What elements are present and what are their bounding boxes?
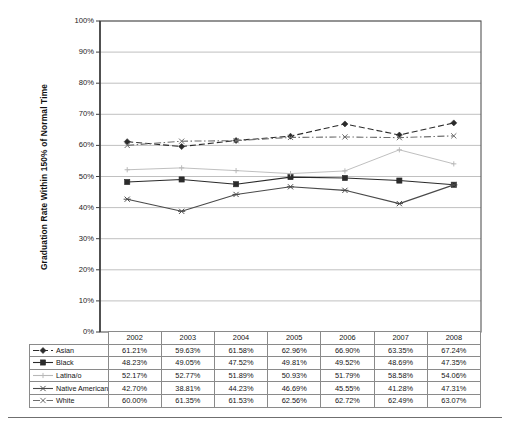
table-cell: 50.93% — [268, 369, 321, 382]
table-cell: 49.05% — [161, 357, 214, 370]
table-cell: 60.00% — [108, 394, 161, 407]
table-cell: 52.77% — [161, 369, 214, 382]
table-cell: 48.69% — [374, 357, 427, 370]
point-marker-x-bar — [341, 188, 348, 193]
series-native-american — [124, 182, 458, 214]
table-cell: 62.96% — [268, 344, 321, 357]
table-header: 2002200320042005200620072008 — [30, 332, 481, 345]
table-cell: 49.81% — [268, 357, 321, 370]
legend-label: Latina/o — [56, 371, 82, 380]
legend-entry: White — [32, 395, 108, 407]
table-cell: 41.28% — [374, 382, 427, 395]
point-marker-x-bar — [287, 184, 294, 189]
legend-label: Black — [56, 358, 74, 367]
point-marker-diamond — [451, 120, 457, 126]
table-row: Asian61.21%59.63%61.58%62.96%66.90%63.35… — [30, 344, 481, 357]
point-marker-x-bar — [124, 197, 131, 202]
legend-row-white: White — [30, 394, 109, 407]
legend-swatch — [32, 371, 54, 380]
legend-label: Native American — [56, 384, 108, 393]
table-column-header: 2002 — [108, 332, 161, 345]
table-cell: 51.89% — [214, 369, 267, 382]
table-cell: 61.58% — [214, 344, 267, 357]
point-marker-square — [179, 177, 184, 182]
legend-swatch — [32, 346, 54, 355]
table-cell: 63.35% — [374, 344, 427, 357]
point-marker-diamond — [179, 144, 185, 150]
point-marker-x-bar — [39, 386, 46, 391]
table-cell: 63.07% — [427, 394, 480, 407]
legend-row-latina-o: Latina/o — [30, 369, 109, 382]
legend-entry: Asian — [32, 345, 108, 357]
legend-marker-x-bar-icon — [32, 384, 54, 393]
series-value-table: 2002200320042005200620072008 Asian61.21%… — [29, 331, 481, 408]
table-header-row: 2002200320042005200620072008 — [30, 332, 481, 345]
point-marker-x-bar — [178, 209, 185, 214]
point-marker-plus — [233, 168, 238, 173]
table-cell: 67.24% — [427, 344, 480, 357]
table-cell: 47.35% — [427, 357, 480, 370]
legend-marker-square-icon — [32, 358, 54, 367]
table-cell: 52.17% — [108, 369, 161, 382]
table-row: White60.00%61.35%61.53%62.56%62.72%62.49… — [30, 394, 481, 407]
table-cell: 61.21% — [108, 344, 161, 357]
table-cell: 38.81% — [161, 382, 214, 395]
chart-page: Graduation Rate Within 150% of Normal Ti… — [0, 0, 510, 425]
table-body: Asian61.21%59.63%61.58%62.96%66.90%63.35… — [30, 344, 481, 407]
table-cell: 45.55% — [321, 382, 374, 395]
legend-entry: Black — [32, 357, 108, 369]
point-marker-diamond — [40, 347, 46, 353]
table-column-header: 2003 — [161, 332, 214, 345]
legend-entry: Native American — [32, 382, 108, 394]
line-chart: Graduation Rate Within 150% of Normal Ti… — [0, 0, 510, 345]
point-marker-square — [233, 182, 238, 187]
point-marker-x-bar — [396, 201, 403, 206]
point-marker-diamond — [342, 121, 348, 127]
point-marker-cross — [40, 398, 45, 403]
point-marker-square — [342, 175, 347, 180]
point-marker-plus — [451, 161, 456, 166]
point-marker-square — [125, 179, 130, 184]
data-table: 2002200320042005200620072008 Asian61.21%… — [29, 331, 481, 408]
legend-swatch — [32, 396, 54, 405]
point-marker-plus — [397, 147, 402, 152]
footer-divider — [8, 417, 502, 418]
table-column-header: 2006 — [321, 332, 374, 345]
point-marker-plus — [342, 168, 347, 173]
table-cell: 62.56% — [268, 394, 321, 407]
plot-area — [0, 0, 510, 345]
table-cell: 42.70% — [108, 382, 161, 395]
table-cell: 62.49% — [374, 394, 427, 407]
table-cell: 48.23% — [108, 357, 161, 370]
legend-marker-diamond-icon — [32, 346, 54, 355]
point-marker-square — [397, 178, 402, 183]
table-cell: 61.35% — [161, 394, 214, 407]
legend-marker-plus-icon — [32, 371, 54, 380]
table-cell: 44.23% — [214, 382, 267, 395]
legend-swatch — [32, 358, 54, 367]
table-cell: 62.72% — [321, 394, 374, 407]
legend-marker-cross-icon — [32, 396, 54, 405]
legend-swatch — [32, 384, 54, 393]
point-marker-diamond — [288, 133, 294, 139]
table-cell: 47.52% — [214, 357, 267, 370]
table-cell: 47.31% — [427, 382, 480, 395]
table-row: Latina/o52.17%52.77%51.89%50.93%51.79%58… — [30, 369, 481, 382]
legend-row-asian: Asian — [30, 344, 109, 357]
table-cell: 66.90% — [321, 344, 374, 357]
table-cell: 61.53% — [214, 394, 267, 407]
legend-entry: Latina/o — [32, 370, 108, 382]
point-marker-x-bar — [232, 192, 239, 197]
table-column-header: 2007 — [374, 332, 427, 345]
table-cell: 46.69% — [268, 382, 321, 395]
legend-row-black: Black — [30, 357, 109, 370]
point-marker-plus — [40, 373, 45, 378]
table-corner-cell — [30, 332, 109, 345]
table-column-header: 2005 — [268, 332, 321, 345]
series-line — [127, 150, 454, 174]
table-cell: 51.79% — [321, 369, 374, 382]
table-cell: 49.52% — [321, 357, 374, 370]
table-row: Native American42.70%38.81%44.23%46.69%4… — [30, 382, 481, 395]
point-marker-plus — [179, 165, 184, 170]
legend-row-native-american: Native American — [30, 382, 109, 395]
